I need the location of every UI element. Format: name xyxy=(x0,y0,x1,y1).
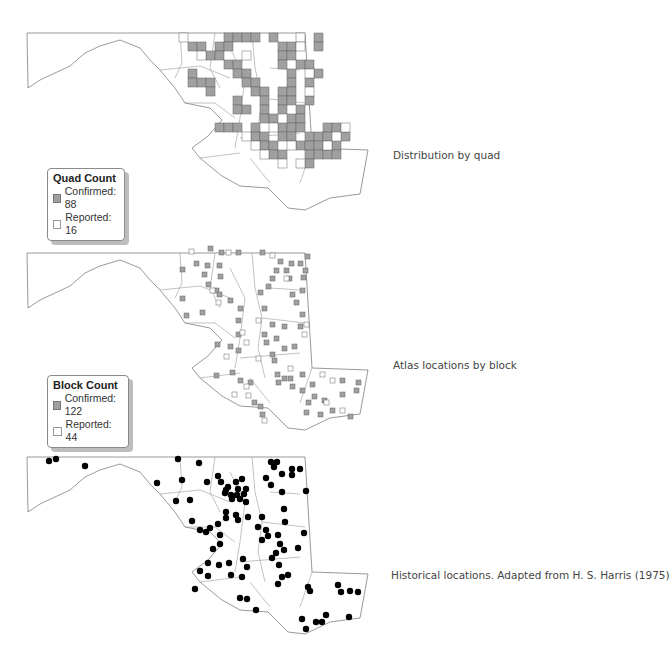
block-map-panel: Block Count Confirmed: 122 Reported: 44 xyxy=(0,228,380,440)
legend-title: Quad Count xyxy=(53,172,119,185)
legend-title: Block Count xyxy=(53,379,123,392)
historical-map-caption: Historical locations. Adapted from H. S.… xyxy=(391,569,670,581)
historical-locations-map xyxy=(0,432,380,644)
block-map-caption: Atlas locations by block xyxy=(393,359,517,371)
legend-item-confirmed: Confirmed: 88 xyxy=(53,185,119,211)
quad-map-caption: Distribution by quad xyxy=(393,149,500,161)
legend-item-confirmed: Confirmed: 122 xyxy=(53,392,123,418)
confirmed-swatch-icon xyxy=(53,401,61,410)
confirmed-swatch-icon xyxy=(53,194,61,203)
historical-map-panel xyxy=(0,432,380,644)
quad-map-panel: Quad Count Confirmed: 88 Reported: 16 xyxy=(0,8,380,220)
